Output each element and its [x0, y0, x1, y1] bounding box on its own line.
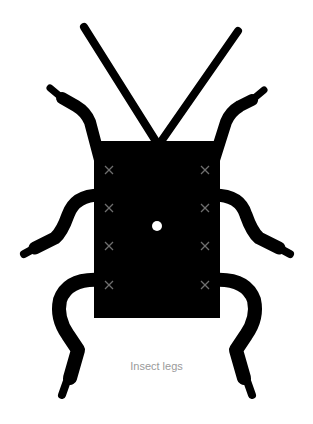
- left-middle-foot: [24, 248, 35, 254]
- center-dot: [152, 221, 162, 231]
- right-middle-leg: [214, 195, 279, 248]
- caption: Insect legs: [0, 360, 313, 372]
- right-hind-foot: [246, 378, 252, 395]
- right-front-foot: [252, 90, 264, 100]
- left-front-foot: [50, 88, 62, 98]
- right-middle-foot: [279, 248, 290, 254]
- left-middle-leg: [35, 195, 100, 248]
- left-hind-foot: [62, 378, 68, 395]
- antennae: [84, 27, 238, 143]
